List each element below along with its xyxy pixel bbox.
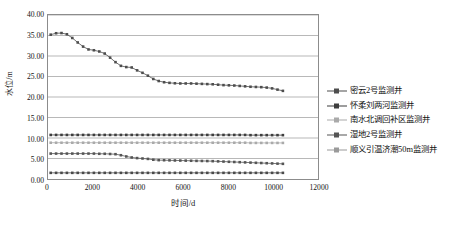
- data-point: [55, 32, 58, 35]
- data-point: [179, 134, 182, 137]
- data-point: [211, 160, 214, 163]
- data-point: [76, 134, 79, 137]
- data-point: [82, 134, 85, 137]
- data-point: [276, 172, 279, 175]
- data-point: [152, 172, 155, 175]
- data-point: [217, 172, 220, 175]
- data-point: [174, 82, 177, 85]
- x-tick-label: 4000: [130, 183, 145, 192]
- data-point: [109, 134, 112, 137]
- data-point: [179, 172, 182, 175]
- legend-item[interactable]: 顺义引温济潮50m监测井: [327, 142, 461, 157]
- data-point: [93, 152, 96, 155]
- data-point: [136, 172, 139, 175]
- data-point: [222, 141, 225, 144]
- data-point: [66, 172, 69, 175]
- data-point: [271, 172, 274, 175]
- data-point: [49, 152, 52, 155]
- x-tick-label: 8000: [221, 183, 236, 192]
- data-point: [190, 159, 193, 162]
- data-point: [201, 141, 204, 144]
- data-point: [222, 160, 225, 163]
- data-point: [87, 152, 90, 155]
- data-point: [141, 134, 144, 137]
- data-point: [260, 142, 263, 145]
- data-point: [82, 152, 85, 155]
- data-point: [71, 152, 74, 155]
- data-point: [238, 134, 241, 137]
- data-point: [103, 172, 106, 175]
- data-point: [136, 141, 139, 144]
- data-point: [282, 134, 285, 137]
- data-point: [255, 162, 258, 165]
- data-point: [98, 153, 101, 156]
- data-point: [184, 172, 187, 175]
- data-point: [260, 86, 263, 89]
- data-point: [206, 141, 209, 144]
- x-tick-label: 0: [45, 183, 49, 192]
- data-point: [184, 159, 187, 162]
- data-point: [190, 172, 193, 175]
- data-point: [233, 84, 236, 87]
- data-point: [217, 160, 220, 163]
- data-point: [228, 134, 231, 137]
- data-point: [103, 134, 106, 137]
- data-point: [276, 162, 279, 165]
- data-point: [163, 172, 166, 175]
- data-point: [201, 134, 204, 137]
- legend-item[interactable]: 密云2号监测井: [327, 84, 461, 99]
- data-point: [55, 152, 58, 155]
- data-point: [238, 85, 241, 88]
- data-point: [130, 156, 133, 159]
- legend-item[interactable]: 湿地2号监测井: [327, 128, 461, 143]
- data-point: [238, 161, 241, 164]
- legend-marker-icon: [327, 145, 347, 155]
- data-point: [265, 172, 268, 175]
- data-point: [282, 163, 285, 166]
- data-point: [184, 134, 187, 137]
- data-point: [244, 172, 247, 175]
- data-point: [55, 172, 58, 175]
- legend-marker-icon: [327, 115, 347, 125]
- data-point: [136, 134, 139, 137]
- legend-item[interactable]: 南水北调回补区监测井: [327, 113, 461, 128]
- data-point: [60, 152, 63, 155]
- data-point: [147, 134, 150, 137]
- legend-marker-icon: [327, 101, 347, 111]
- data-point: [271, 142, 274, 145]
- data-point: [206, 160, 209, 163]
- data-point: [201, 160, 204, 163]
- y-tick-label: 25.00: [3, 72, 47, 81]
- data-point: [249, 172, 252, 175]
- data-point: [184, 82, 187, 85]
- data-point: [141, 157, 144, 160]
- legend-marker-icon: [327, 86, 347, 96]
- data-point: [271, 162, 274, 165]
- data-point: [255, 172, 258, 175]
- data-point: [271, 134, 274, 137]
- data-point: [98, 50, 101, 53]
- x-axis-tick-labels: 020004000600080001000012000: [47, 182, 319, 196]
- data-point: [120, 65, 123, 68]
- data-point: [244, 85, 247, 88]
- data-point: [201, 83, 204, 86]
- data-point: [109, 56, 112, 59]
- data-point: [271, 87, 274, 90]
- data-point: [228, 160, 231, 163]
- data-point: [147, 158, 150, 161]
- data-point: [201, 172, 204, 175]
- data-point: [265, 142, 268, 145]
- data-point: [87, 141, 90, 144]
- data-point: [157, 80, 160, 83]
- data-point: [152, 158, 155, 161]
- data-point: [255, 142, 258, 145]
- data-point: [82, 172, 85, 175]
- data-point: [141, 141, 144, 144]
- data-point: [49, 33, 52, 36]
- data-point: [120, 134, 123, 137]
- data-point: [60, 32, 63, 35]
- legend-item[interactable]: 怀柔刘两河监测井: [327, 99, 461, 114]
- y-tick-label: 30.00: [3, 51, 47, 60]
- data-point: [130, 66, 133, 69]
- data-point: [217, 134, 220, 137]
